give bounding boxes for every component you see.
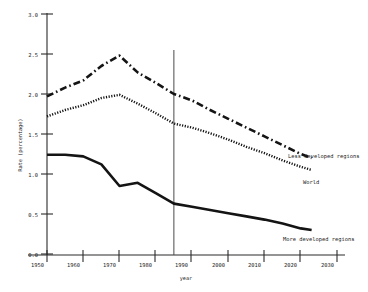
line-chart-population-growth-rate: 0.0 0.5 1.0 1.5 2.0 2.5 3.0 1950 1960 19…	[0, 0, 368, 292]
x-tick-label-1990: 1990	[175, 262, 188, 268]
x-axis-title: year	[180, 275, 193, 282]
y-tick-label-0-5: 0.5	[28, 212, 38, 218]
series-path-more-developed-regions	[47, 155, 312, 230]
x-tick-label-1980: 1980	[139, 262, 152, 268]
x-tick-label-1950: 1950	[31, 262, 44, 268]
chart-canvas: 0.0 0.5 1.0 1.5 2.0 2.5 3.0 1950 1960 19…	[0, 0, 368, 292]
x-tick-label-1970: 1970	[103, 262, 116, 268]
series-label-less-developed-regions: Less developed regions	[288, 153, 359, 160]
y-tick-label-2-5: 2.5	[28, 52, 38, 58]
y-tick-label-1-0: 1.0	[28, 172, 38, 178]
series-label-world: World	[303, 179, 319, 185]
y-axis-title: Rate (percentage)	[17, 118, 24, 171]
y-tick-label-3-0: 3.0	[28, 12, 38, 18]
x-tick-label-2020: 2020	[284, 262, 297, 268]
x-tick-label-1960: 1960	[67, 262, 80, 268]
series-label-more-developed-regions: More developed regions	[283, 236, 354, 243]
y-tick-label-2-0: 2.0	[28, 92, 38, 98]
y-tick-label-1-5: 1.5	[28, 132, 38, 138]
y-tick-label-0-0: 0.0	[28, 252, 38, 258]
x-tick-label-2000: 2000	[212, 262, 225, 268]
x-tick-label-2010: 2010	[248, 262, 261, 268]
x-axis-ticks	[47, 250, 337, 262]
series-path-less-developed-regions	[47, 56, 312, 158]
series-group	[47, 56, 312, 230]
x-tick-label-2030: 2030	[321, 262, 334, 268]
